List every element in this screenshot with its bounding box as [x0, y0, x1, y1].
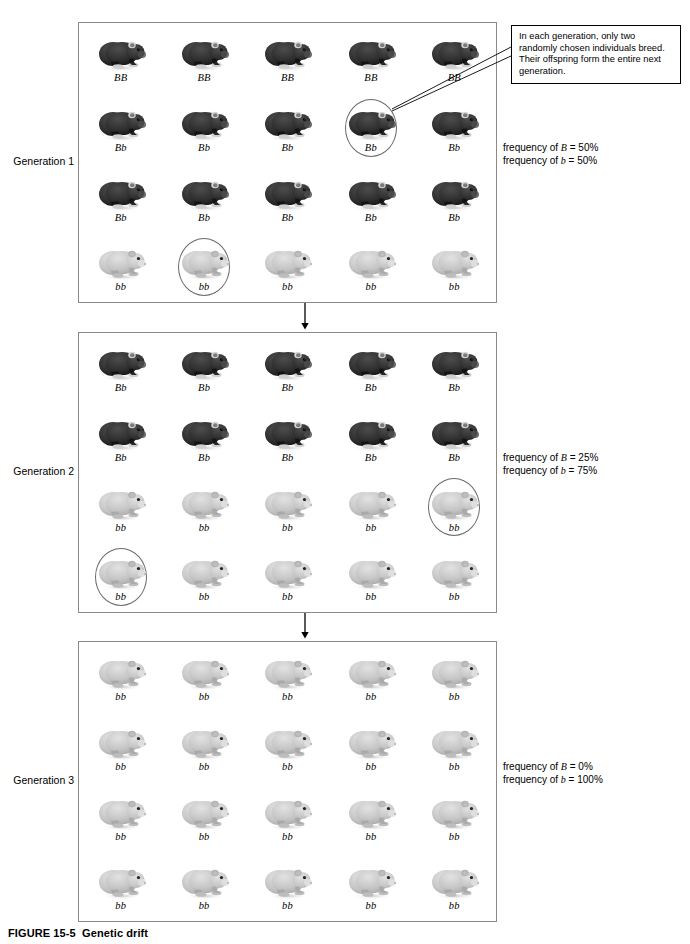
individual: bb	[329, 851, 412, 921]
animal-figure	[345, 651, 397, 691]
animal-figure	[178, 651, 230, 691]
genotype-label: BB	[448, 73, 461, 84]
generation-3-grid: bb	[79, 642, 496, 921]
genotype-label: BB	[197, 73, 210, 84]
individual: Bb	[162, 93, 245, 163]
genotype-label: bb	[365, 901, 376, 912]
light-rodent-icon	[262, 653, 312, 691]
genotype-label: bb	[199, 762, 210, 773]
genotype-label: bb	[199, 523, 210, 534]
animal-figure	[345, 172, 397, 212]
individual: bb	[329, 782, 412, 852]
genotype-label: bb	[282, 832, 293, 843]
animal-figure	[95, 241, 147, 281]
individual: bb	[162, 473, 245, 543]
light-rodent-icon	[179, 484, 229, 522]
individual: Bb	[413, 93, 496, 163]
dark-rodent-icon	[346, 344, 396, 382]
genotype-label: Bb	[365, 143, 377, 154]
frequency-recessive-value: = 100%	[566, 774, 603, 785]
animal-figure	[345, 551, 397, 591]
dark-rodent-icon	[429, 34, 479, 72]
individual: bb	[246, 851, 329, 921]
animal-figure	[345, 860, 397, 900]
frequency-dominant-value: = 25%	[567, 452, 598, 463]
light-rodent-icon	[96, 862, 146, 900]
animal-figure	[178, 860, 230, 900]
animal-figure	[178, 791, 230, 831]
animal-figure	[428, 651, 480, 691]
genotype-label: bb	[282, 592, 293, 603]
dark-rodent-icon	[346, 414, 396, 452]
light-rodent-icon	[179, 862, 229, 900]
animal-figure	[95, 860, 147, 900]
light-rodent-icon	[346, 862, 396, 900]
genotype-label: bb	[115, 832, 126, 843]
animal-figure	[428, 860, 480, 900]
animal-figure	[428, 791, 480, 831]
genotype-label: Bb	[448, 213, 460, 224]
dark-rodent-icon	[96, 414, 146, 452]
generation-1-grid: BB	[79, 23, 496, 302]
genotype-label: bb	[449, 282, 460, 293]
animal-figure	[95, 102, 147, 142]
genotype-label: BB	[114, 73, 127, 84]
individual: bb	[162, 712, 245, 782]
animal-figure	[261, 412, 313, 452]
individual: bb	[413, 851, 496, 921]
light-rodent-icon	[429, 793, 479, 831]
dark-rodent-icon	[179, 414, 229, 452]
light-rodent-icon	[429, 723, 479, 761]
individual: BB	[162, 23, 245, 93]
animal-figure	[95, 32, 147, 72]
individual: Bb	[246, 163, 329, 233]
genotype-label: bb	[365, 282, 376, 293]
animal-figure	[345, 791, 397, 831]
individual: bb	[79, 473, 162, 543]
dark-rodent-icon	[262, 344, 312, 382]
dark-rodent-icon	[96, 174, 146, 212]
dark-rodent-icon	[346, 34, 396, 72]
individual: bb	[79, 782, 162, 852]
animal-figure	[345, 241, 397, 281]
frequency-dominant-value: = 0%	[567, 761, 593, 772]
genotype-label: bb	[199, 832, 210, 843]
genotype-label: Bb	[198, 383, 210, 394]
dark-rodent-icon	[429, 174, 479, 212]
frequency-recessive-value: = 75%	[566, 465, 597, 476]
animal-figure	[345, 342, 397, 382]
genotype-label: bb	[115, 901, 126, 912]
animal-figure	[95, 342, 147, 382]
light-rodent-icon	[262, 862, 312, 900]
figure-caption: FIGURE 15-5 Genetic drift	[8, 927, 148, 939]
individual: bb	[413, 542, 496, 612]
dark-rodent-icon	[262, 104, 312, 142]
individual: bb	[329, 712, 412, 782]
genotype-label: bb	[282, 692, 293, 703]
frequency-recessive-prefix: frequency of	[503, 774, 561, 785]
light-rodent-icon	[96, 793, 146, 831]
light-rodent-icon	[262, 793, 312, 831]
callout-text: In each generation, only two randomly ch…	[519, 31, 665, 76]
individual: bb	[246, 712, 329, 782]
animal-figure	[95, 651, 147, 691]
individual: bb	[79, 232, 162, 302]
animal-figure	[261, 241, 313, 281]
animal-figure	[428, 342, 480, 382]
frequency-recessive-line: frequency of b = 50%	[503, 154, 598, 167]
light-rodent-icon	[346, 793, 396, 831]
individual: Bb	[329, 163, 412, 233]
individual: bb	[162, 542, 245, 612]
light-rodent-icon	[262, 723, 312, 761]
animal-figure	[178, 551, 230, 591]
individual: bb	[246, 642, 329, 712]
individual: Bb	[162, 163, 245, 233]
light-rodent-icon	[262, 243, 312, 281]
genotype-label: bb	[115, 762, 126, 773]
generation-3-frequencies: frequency of B = 0% frequency of b = 100…	[503, 760, 603, 786]
genotype-label: bb	[115, 523, 126, 534]
genotype-label: bb	[449, 901, 460, 912]
frequency-dominant-line: frequency of B = 25%	[503, 451, 598, 464]
individual: bb	[329, 232, 412, 302]
animal-figure	[428, 32, 480, 72]
